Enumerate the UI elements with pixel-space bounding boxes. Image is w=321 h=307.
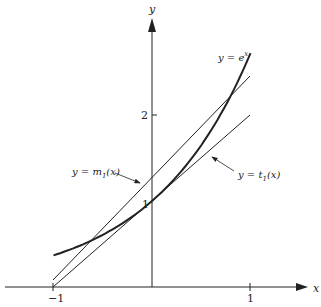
x-tick-label-neg1: −1 (48, 292, 64, 305)
y-tick-label-2: 2 (141, 109, 148, 122)
m1-arrow-icon (115, 173, 140, 183)
y-axis-arrow-icon (148, 18, 156, 32)
m1-label: y = m1(x) (71, 166, 140, 183)
exp-label: y = ex (217, 50, 248, 63)
chart: x −1 1 y 2 1 y = ex y = m1(x) y = t1(x) (0, 0, 321, 307)
x-axis-arrow-icon (296, 283, 308, 291)
t1-label: y = t1(x) (212, 157, 280, 183)
y-axis: y 2 1 (141, 3, 157, 287)
x-tick-label-1: 1 (247, 292, 254, 305)
svg-text:y = t1(x): y = t1(x) (237, 169, 280, 183)
x-axis: x −1 1 (5, 282, 320, 305)
t1-arrow-icon (212, 157, 234, 171)
svg-text:y = ex: y = ex (217, 50, 248, 63)
x-axis-label: x (313, 282, 320, 295)
svg-text:y = m1(x): y = m1(x) (71, 166, 120, 180)
y-axis-label: y (148, 3, 156, 16)
